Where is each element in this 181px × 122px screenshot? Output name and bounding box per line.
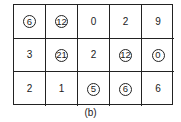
circled-value: 12 [55, 15, 68, 28]
value-grid: 612029321212021566 [13, 4, 173, 105]
grid-cell: 12 [46, 5, 78, 39]
circled-value: 5 [87, 83, 100, 96]
grid-cell: 2 [110, 5, 142, 39]
grid-cell: 0 [142, 39, 174, 72]
figure-caption: (b) [0, 107, 181, 118]
circled-value: 6 [119, 83, 132, 96]
cell-value: 1 [59, 84, 65, 94]
circled-value: 21 [55, 49, 68, 62]
circled-value: 12 [119, 49, 132, 62]
cell-value: 2 [123, 17, 129, 27]
grid-cell: 21 [46, 39, 78, 72]
cell-value: 0 [91, 17, 97, 27]
grid-cell: 0 [78, 5, 110, 39]
cell-value: 9 [155, 17, 161, 27]
grid-cell: 2 [14, 72, 46, 106]
grid-cell: 3 [14, 39, 46, 72]
grid-cell: 12 [110, 39, 142, 72]
grid-cell: 1 [46, 72, 78, 106]
grid-cell: 6 [14, 5, 46, 39]
circled-value: 6 [23, 15, 36, 28]
grid-cell: 6 [142, 72, 174, 106]
grid-cell: 5 [78, 72, 110, 106]
cell-value: 2 [91, 50, 97, 60]
grid-cell: 9 [142, 5, 174, 39]
cell-value: 2 [27, 84, 33, 94]
circled-value: 0 [152, 49, 165, 62]
grid-cell: 2 [78, 39, 110, 72]
grid-cell: 6 [110, 72, 142, 106]
cell-value: 3 [27, 50, 33, 60]
cell-value: 6 [155, 84, 161, 94]
